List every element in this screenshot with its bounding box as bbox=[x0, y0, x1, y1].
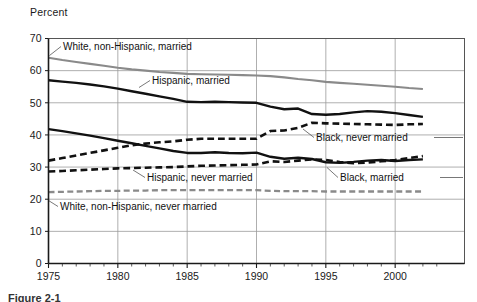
x-tick-label-1990: 1990 bbox=[245, 270, 269, 282]
series-line-white-non-hispanic-never-married bbox=[49, 190, 423, 192]
x-tick-label-2000: 2000 bbox=[383, 270, 407, 282]
gridlines-group bbox=[49, 39, 465, 264]
figure-root: Percent 010203040506070 1975198019851990… bbox=[0, 0, 477, 302]
line-chart-svg: 010203040506070 197519801985199019952000… bbox=[0, 0, 477, 302]
leader-line-5 bbox=[49, 201, 59, 207]
leader-line-0 bbox=[50, 47, 62, 56]
x-tick-label-1995: 1995 bbox=[314, 270, 338, 282]
ann-white-never: White, non-Hispanic, never married bbox=[60, 201, 217, 212]
x-tick-label-1985: 1985 bbox=[175, 270, 199, 282]
y-tick-label-50: 50 bbox=[30, 97, 42, 109]
chart-plot-area: 010203040506070 197519801985199019952000… bbox=[0, 0, 477, 302]
series-line-white-non-hispanic-married bbox=[49, 58, 423, 89]
figure-caption: Figure 2-1 bbox=[8, 292, 61, 302]
leader-line-4 bbox=[327, 168, 338, 178]
leader-line-2 bbox=[303, 129, 314, 138]
ann-hispanic-never: Hispanic, never married bbox=[147, 172, 253, 183]
leader-line-1 bbox=[139, 81, 150, 88]
y-tick-label-10: 10 bbox=[30, 225, 42, 237]
x-tick-label-1980: 1980 bbox=[106, 270, 130, 282]
y-tick-label-30: 30 bbox=[30, 161, 42, 173]
ann-black-married: Black, married bbox=[340, 172, 404, 183]
x-tick-label-1975: 1975 bbox=[37, 270, 61, 282]
ann-white-married: White, non-Hispanic, married bbox=[63, 41, 192, 52]
ann-hispanic-married: Hispanic, married bbox=[152, 75, 230, 86]
y-tick-label-40: 40 bbox=[30, 129, 42, 141]
y-tick-labels-group: 010203040506070 bbox=[30, 32, 49, 269]
y-tick-label-70: 70 bbox=[30, 32, 42, 44]
ann-black-never: Black, never married bbox=[316, 132, 408, 143]
y-tick-label-0: 0 bbox=[36, 257, 42, 269]
leader-line-3 bbox=[133, 170, 145, 178]
x-tick-labels-group: 197519801985199019952000 bbox=[37, 264, 407, 282]
y-tick-label-60: 60 bbox=[30, 64, 42, 76]
y-tick-label-20: 20 bbox=[30, 193, 42, 205]
series-line-hispanic-never-married bbox=[49, 156, 423, 171]
